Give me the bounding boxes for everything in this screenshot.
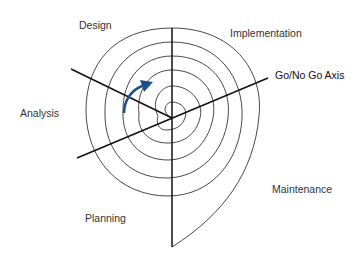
label-go-no-go-axis: Go/No Go Axis xyxy=(275,69,344,81)
spiral-loop-2 xyxy=(139,86,201,143)
label-planning: Planning xyxy=(85,212,126,224)
spiral-loop-5 xyxy=(86,42,242,196)
label-implementation: Implementation xyxy=(230,27,302,39)
label-design: Design xyxy=(79,19,112,31)
label-maintenance: Maintenance xyxy=(272,183,332,195)
label-analysis: Analysis xyxy=(20,107,59,119)
spiral-canvas xyxy=(0,0,359,259)
